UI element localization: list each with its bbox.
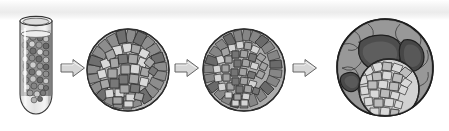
stage-compacted-sphere xyxy=(202,24,286,116)
stage-cell-aggregate-sphere xyxy=(86,24,170,116)
organoid-formation-figure xyxy=(0,0,449,131)
arrow-2 xyxy=(174,58,200,78)
tube-rim-inner xyxy=(23,18,49,25)
arrow-1 xyxy=(60,58,86,78)
stage-test-tube-cell-suspension xyxy=(14,12,58,116)
arrow-3 xyxy=(292,58,318,78)
stage-mature-organoid xyxy=(332,16,438,120)
